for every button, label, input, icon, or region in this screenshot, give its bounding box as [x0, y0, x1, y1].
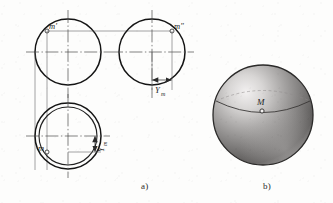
label-m-double-prime: mʺ	[174, 21, 184, 31]
caption-a: a)	[141, 181, 148, 191]
sphere-group	[213, 65, 313, 165]
label-ym-top-subscript: m	[102, 141, 108, 146]
label-m-prime: m'	[49, 21, 57, 31]
label-m-top: m	[38, 143, 44, 153]
point-marker-M-sphere	[260, 109, 264, 113]
top-view-group	[26, 94, 110, 178]
technical-drawing: m' mʺ m Y m Y m M	[0, 0, 333, 203]
figure-canvas: m' mʺ m Y m Y m M a) b)	[0, 0, 333, 203]
point-marker-m-top	[45, 150, 49, 154]
label-M-sphere: M	[256, 97, 265, 107]
caption-b: b)	[263, 181, 271, 191]
label-ym-side-subscript: m	[161, 91, 166, 97]
